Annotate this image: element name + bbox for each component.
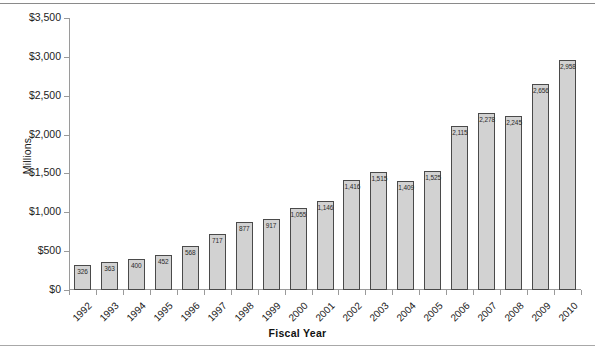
y-tick-mark	[64, 18, 69, 19]
x-tick-mark	[392, 290, 393, 295]
y-tick-mark	[64, 251, 69, 252]
x-tick-mark	[285, 290, 286, 295]
y-tick-label: $3,000	[29, 50, 61, 62]
x-tick-mark	[312, 290, 313, 295]
bar-value-label: 1,515	[371, 175, 386, 182]
x-tick-mark	[123, 290, 124, 295]
bar: 717	[209, 234, 226, 290]
bar: 2,278	[478, 113, 495, 290]
y-tick-label: $1,000	[29, 205, 61, 217]
bar: 1,515	[370, 172, 387, 290]
bar-value-label: 363	[102, 265, 117, 272]
bar: 2,958	[559, 60, 576, 290]
bar: 568	[182, 246, 199, 290]
x-tick-mark	[150, 290, 151, 295]
bar: 877	[236, 222, 253, 290]
bar: 400	[128, 259, 145, 290]
bar-value-label: 452	[156, 258, 171, 265]
bar-value-label: 917	[264, 222, 279, 229]
bar-value-label: 1,416	[344, 183, 359, 190]
x-tick-mark	[365, 290, 366, 295]
bar: 452	[155, 255, 172, 290]
x-tick-mark	[96, 290, 97, 295]
y-axis-line	[69, 18, 70, 290]
x-tick-mark	[258, 290, 259, 295]
x-tick-mark	[581, 290, 582, 295]
y-tick-label: $500	[38, 244, 61, 256]
bar: 363	[101, 262, 118, 290]
y-tick-label: $2,000	[29, 128, 61, 140]
bar-value-label: 400	[129, 262, 144, 269]
x-tick-mark	[419, 290, 420, 295]
x-tick-mark	[473, 290, 474, 295]
bar: 2,656	[532, 84, 549, 290]
bar-value-label: 568	[183, 249, 198, 256]
top-divider	[0, 3, 595, 4]
bar-value-label: 2,278	[479, 116, 494, 123]
bar: 2,245	[505, 116, 522, 290]
y-tick-mark	[64, 57, 69, 58]
x-tick-mark	[446, 290, 447, 295]
bar-value-label: 717	[210, 237, 225, 244]
y-tick-label: $1,500	[29, 166, 61, 178]
y-tick-mark	[64, 212, 69, 213]
y-tick-label: $3,500	[29, 11, 61, 23]
x-tick-mark	[338, 290, 339, 295]
bar: 1,055	[290, 208, 307, 290]
y-tick-mark	[64, 135, 69, 136]
chart-page: Millions $0$500$1,000$1,500$2,000$2,500$…	[0, 0, 595, 360]
bar-value-label: 326	[75, 268, 90, 275]
y-axis-title: Millions	[21, 111, 33, 201]
bar-value-label: 1,409	[398, 184, 413, 191]
plot-area: $0$500$1,000$1,500$2,000$2,500$3,000$3,5…	[69, 18, 581, 290]
x-tick-mark	[500, 290, 501, 295]
bar: 1,525	[424, 171, 441, 290]
bar: 1,146	[317, 201, 334, 290]
x-axis-title: Fiscal Year	[0, 327, 595, 339]
bar-value-label: 2,115	[452, 129, 467, 136]
x-tick-mark	[69, 290, 70, 295]
y-tick-mark	[64, 96, 69, 97]
bar-value-label: 1,055	[291, 211, 306, 218]
bar-value-label: 1,146	[318, 204, 333, 211]
y-tick-label: $0	[49, 283, 61, 295]
bar: 1,409	[397, 181, 414, 290]
y-tick-label: $2,500	[29, 89, 61, 101]
bar: 917	[263, 219, 280, 290]
x-tick-mark	[204, 290, 205, 295]
x-tick-mark	[177, 290, 178, 295]
bar-value-label: 2,656	[533, 87, 548, 94]
bar: 1,416	[343, 180, 360, 290]
bar-value-label: 877	[237, 225, 252, 232]
bar: 326	[74, 265, 91, 290]
bottom-divider	[0, 345, 595, 346]
x-tick-mark	[554, 290, 555, 295]
x-tick-mark	[527, 290, 528, 295]
x-tick-mark	[231, 290, 232, 295]
bar-value-label: 1,525	[425, 174, 440, 181]
bar: 2,115	[451, 126, 468, 290]
y-tick-mark	[64, 173, 69, 174]
bar-value-label: 2,245	[506, 119, 521, 126]
bar-value-label: 2,958	[560, 63, 575, 70]
